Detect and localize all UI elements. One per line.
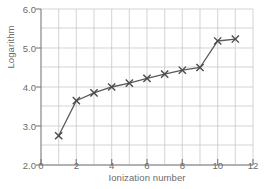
x-axis-label: Ionization number bbox=[41, 172, 253, 183]
x-tick-label-10: 10 bbox=[208, 161, 228, 171]
y-axis-tick-marks bbox=[36, 9, 41, 165]
x-tick-label-0: 0 bbox=[31, 161, 51, 171]
x-tick-label-4: 4 bbox=[102, 161, 122, 171]
x-tick-label-6: 6 bbox=[137, 161, 157, 171]
x-tick-label-8: 8 bbox=[172, 161, 192, 171]
chart-container: 6.0 5.0 4.0 3.0 2.0 Logarithm bbox=[0, 0, 275, 189]
x-tick-label-12: 12 bbox=[243, 161, 263, 171]
x-tick-label-2: 2 bbox=[66, 161, 86, 171]
